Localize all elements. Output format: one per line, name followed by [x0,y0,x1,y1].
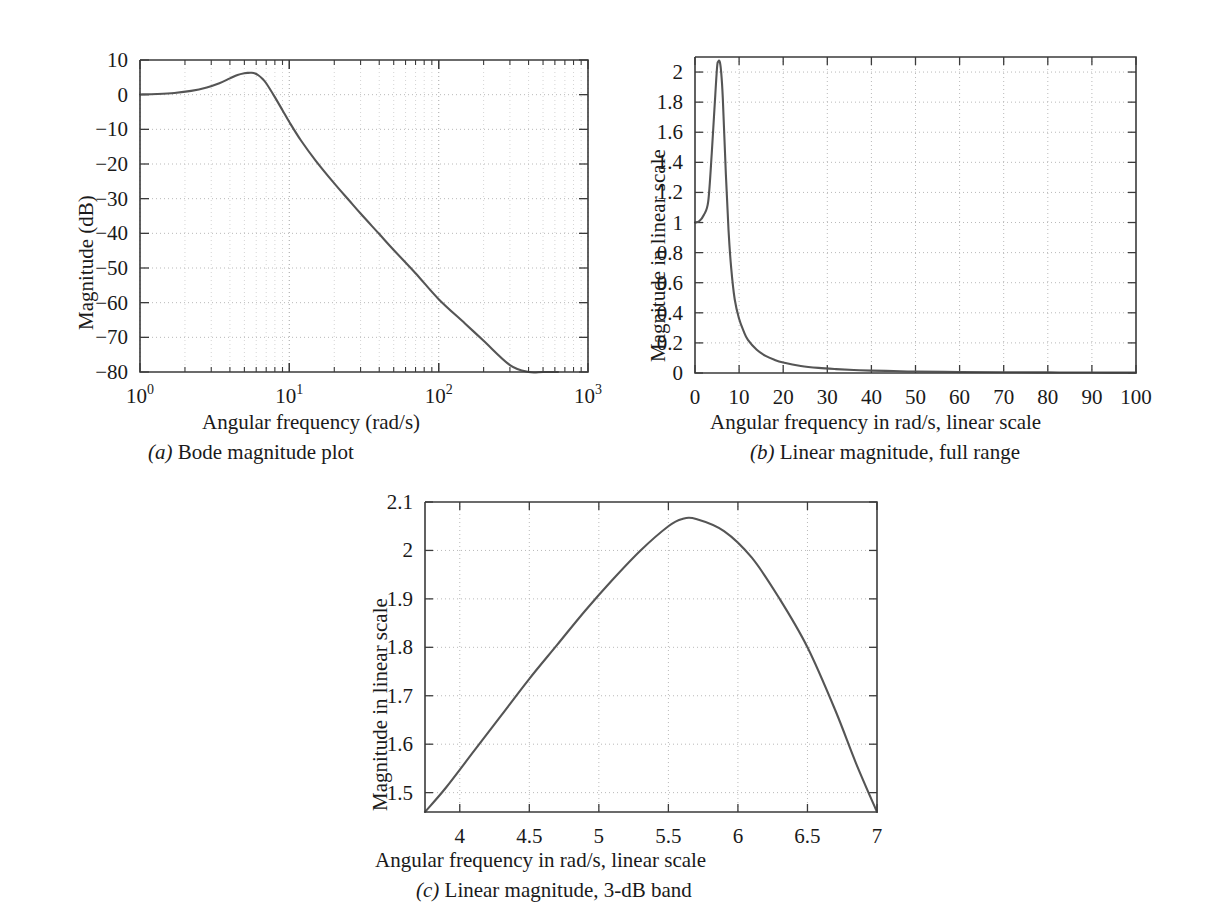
panel-a-caption: (a) Bode magnitude plot [148,440,354,465]
svg-text:100: 100 [1120,385,1152,409]
svg-text:1: 1 [673,211,684,235]
svg-text:5.5: 5.5 [655,824,681,848]
svg-text:10: 10 [107,48,128,72]
panel-b-x-axis-label: Angular frequency in rad/s, linear scale [710,410,1041,435]
svg-text:90: 90 [1081,385,1102,409]
svg-text:−60: −60 [95,291,128,315]
panel-c-caption: (c) Linear magnitude, 3-dB band [416,878,692,903]
panel-a-x-axis-label: Angular frequency (rad/s) [202,410,420,435]
svg-text:6.5: 6.5 [794,824,820,848]
panel-c-y-axis-label: Magnitude in linear scale [368,598,393,811]
panel-a-caption-text: Bode magnitude plot [173,440,354,464]
panel-c-linear-3db-band: Magnitude in linear scale 44.555.566.57 … [280,470,930,907]
svg-text:2: 2 [673,60,684,84]
panel-b-caption-text: Linear magnitude, full range [775,440,1021,464]
svg-text:6: 6 [733,824,744,848]
svg-text:1.8: 1.8 [657,90,683,114]
panel-a-y-axis-label: Magnitude (dB) [74,195,99,330]
svg-text:70: 70 [993,385,1014,409]
svg-text:10: 10 [729,385,750,409]
svg-text:2: 2 [403,538,414,562]
svg-text:2.1: 2.1 [387,490,413,514]
panel-c-caption-prefix: (c) [416,878,439,902]
svg-text:−20: −20 [95,152,128,176]
svg-text:−70: −70 [95,325,128,349]
panel-c-x-axis-label: Angular frequency in rad/s, linear scale [375,848,706,873]
panel-a-bode-magnitude: Magnitude (dB) 100101102103 100−10−20−30… [0,0,620,470]
svg-text:103: 103 [574,382,602,408]
svg-text:−50: −50 [95,256,128,280]
panel-b-caption: (b) Linear magnitude, full range [750,440,1020,465]
panel-c-caption-text: Linear magnitude, 3-dB band [439,878,692,902]
svg-text:20: 20 [773,385,794,409]
svg-text:7: 7 [872,824,883,848]
svg-text:102: 102 [425,382,453,408]
panel-b-plot-svg: 0102030405060708090100 00.20.40.60.811.2… [600,0,1210,470]
panel-b-linear-full-range: Magnitude in linear scale 01020304050607… [600,0,1210,470]
svg-text:80: 80 [1037,385,1058,409]
svg-text:0: 0 [673,361,684,385]
svg-text:4.5: 4.5 [516,824,542,848]
svg-text:5: 5 [594,824,605,848]
svg-text:−30: −30 [95,187,128,211]
svg-text:−40: −40 [95,221,128,245]
svg-text:1.6: 1.6 [657,120,683,144]
svg-text:4: 4 [455,824,466,848]
svg-text:−80: −80 [95,360,128,384]
svg-text:40: 40 [861,385,882,409]
svg-text:0: 0 [690,385,701,409]
svg-text:50: 50 [905,385,926,409]
figure-three-magnitude-plots: Magnitude (dB) 100101102103 100−10−20−30… [0,0,1210,907]
panel-b-y-axis-label: Magnitude in linear scale [646,149,671,362]
svg-text:30: 30 [817,385,838,409]
panel-b-caption-prefix: (b) [750,440,775,464]
svg-text:60: 60 [949,385,970,409]
svg-text:0: 0 [118,83,129,107]
svg-text:101: 101 [275,382,303,408]
svg-text:100: 100 [126,382,154,408]
svg-text:−10: −10 [95,117,128,141]
panel-a-caption-prefix: (a) [148,440,173,464]
